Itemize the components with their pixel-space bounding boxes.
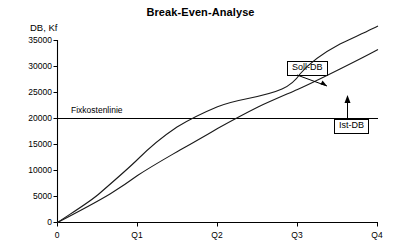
ist-db-arrow xyxy=(345,95,351,118)
break-even-chart: Break-Even-Analyse DB, Kf 35000 30000 25… xyxy=(0,0,401,249)
series-line-soll-db xyxy=(58,26,379,223)
plot-area xyxy=(0,0,401,249)
axis-lines xyxy=(58,40,379,223)
series-line-ist-db xyxy=(58,50,379,223)
soll-db-arrow xyxy=(297,75,327,86)
y-tick-marks xyxy=(54,41,58,223)
x-tick-marks xyxy=(58,223,378,227)
